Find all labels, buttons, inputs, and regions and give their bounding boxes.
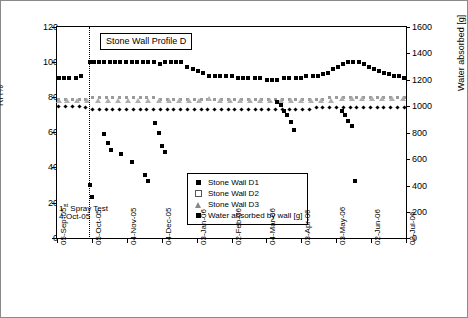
- data-point-d4: [219, 108, 223, 112]
- data-point-d4: [294, 108, 298, 112]
- data-point-d1: [124, 60, 128, 64]
- data-point-d3: [105, 98, 111, 103]
- data-point-water: [343, 113, 347, 117]
- data-point-d3: [125, 98, 131, 103]
- data-point-d3: [247, 98, 253, 103]
- data-point-d4: [57, 104, 61, 108]
- data-point-d1: [282, 76, 286, 80]
- data-point-d4: [63, 104, 67, 108]
- data-point-d4: [158, 108, 162, 112]
- data-point-d4: [307, 108, 311, 112]
- x-tick-label-1: 05-Oct-05: [95, 209, 103, 245]
- data-point-d3: [298, 98, 304, 103]
- data-point-d1: [62, 76, 66, 80]
- data-point-d4: [84, 106, 88, 110]
- data-point-d3: [237, 98, 243, 103]
- data-point-water: [109, 148, 113, 152]
- data-point-d4: [395, 106, 399, 110]
- legend-label-0: Stone Wall D1: [208, 177, 259, 188]
- data-point-d1: [362, 62, 366, 66]
- x-tick-label-10: 02-Jul-06: [409, 212, 417, 245]
- data-point-d3: [227, 98, 233, 103]
- x-tick-label-3: 04-Dec-05: [165, 208, 173, 245]
- data-point-d2: [193, 98, 196, 101]
- data-point-d3: [176, 98, 182, 103]
- data-point-d1: [270, 78, 274, 82]
- data-point-d3: [217, 98, 223, 103]
- data-point-d1: [118, 60, 122, 64]
- data-point-d1: [372, 67, 376, 71]
- data-point-d1: [163, 60, 167, 64]
- data-point-d4: [179, 108, 183, 112]
- data-point-d4: [328, 106, 332, 110]
- data-point-d1: [224, 74, 228, 78]
- data-point-water: [119, 152, 123, 156]
- data-point-d4: [145, 108, 149, 112]
- data-point-d2: [294, 98, 297, 101]
- data-point-d4: [246, 108, 250, 112]
- legend-label-1: Stone Wall D2: [208, 188, 259, 199]
- data-point-d3: [257, 98, 263, 103]
- data-point-d1: [331, 67, 335, 71]
- data-point-d4: [124, 108, 128, 112]
- x-tick-mark-4: [197, 239, 198, 243]
- data-point-d1: [113, 60, 117, 64]
- data-point-d2: [315, 98, 318, 101]
- data-point-d1: [67, 76, 71, 80]
- data-point-water: [143, 173, 147, 177]
- data-point-d1: [382, 71, 386, 75]
- data-point-d1: [92, 60, 96, 64]
- data-point-d1: [174, 60, 178, 64]
- data-point-water: [102, 132, 106, 136]
- data-point-d1: [402, 76, 406, 80]
- data-point-d4: [314, 106, 318, 110]
- data-point-water: [346, 119, 350, 123]
- data-point-water: [292, 128, 296, 132]
- x-tick-label-7: 03-Apr-06: [304, 209, 312, 245]
- data-point-d1: [351, 60, 355, 64]
- data-point-d1: [130, 60, 134, 64]
- x-tick-mark-1: [92, 239, 93, 243]
- x-tick-label-8: 03-May-06: [339, 207, 347, 245]
- data-point-d3: [349, 96, 355, 101]
- data-point-d4: [287, 108, 291, 112]
- data-point-water: [106, 141, 110, 145]
- data-point-d1: [392, 74, 396, 78]
- data-point-d4: [233, 108, 237, 112]
- data-point-d3: [379, 96, 385, 101]
- data-point-d1: [387, 72, 391, 76]
- data-point-d3: [318, 98, 324, 103]
- data-point-d4: [138, 108, 142, 112]
- data-point-d2: [152, 96, 155, 99]
- data-point-d3: [166, 98, 172, 103]
- data-point-d1: [169, 60, 173, 64]
- data-point-d3: [145, 98, 151, 103]
- legend-item-0: Stone Wall D1: [192, 177, 302, 188]
- data-point-d3: [308, 98, 314, 103]
- data-point-d3: [74, 98, 80, 103]
- x-tick-label-0: 05-Sep-05: [60, 208, 68, 245]
- data-point-d1: [158, 62, 162, 66]
- legend-item-2: Stone Wall D3: [192, 199, 302, 210]
- data-point-d4: [260, 108, 264, 112]
- data-point-d4: [192, 108, 196, 112]
- data-point-d1: [241, 76, 245, 80]
- data-point-d4: [77, 104, 81, 108]
- legend-item-1: Stone Wall D2: [192, 188, 302, 199]
- data-point-d1: [253, 76, 257, 80]
- data-point-water: [279, 103, 283, 107]
- data-point-d1: [311, 74, 315, 78]
- data-point-d4: [273, 108, 277, 112]
- data-point-d1: [367, 65, 371, 69]
- data-point-water: [350, 124, 354, 128]
- data-point-d4: [402, 106, 406, 110]
- data-point-water: [90, 195, 94, 199]
- data-point-d2: [335, 96, 338, 99]
- data-point-d1: [135, 60, 139, 64]
- data-point-d3: [328, 98, 334, 103]
- data-point-d1: [213, 74, 217, 78]
- x-tick-label-4: 03-Jan-06: [200, 209, 208, 245]
- data-point-water: [289, 120, 293, 124]
- data-point-d2: [355, 96, 358, 99]
- data-point-d4: [382, 106, 386, 110]
